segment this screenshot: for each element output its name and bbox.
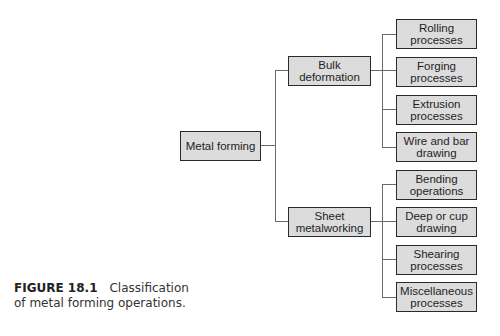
node-label-line1: Shearing: [413, 248, 459, 260]
node-metal-forming: Metal forming: [180, 131, 261, 161]
node-label-line2: processes: [410, 72, 462, 84]
connector-sheet-out: [371, 221, 396, 222]
node-label-line1: Extrusion: [413, 98, 461, 110]
node-label-line1: Forging: [417, 60, 456, 72]
node-extrusion-processes: Extrusionprocesses: [396, 95, 477, 125]
node-shearing-processes: Shearingprocesses: [396, 245, 477, 275]
node-label: Metal forming: [186, 140, 256, 153]
node-rolling-processes: Rollingprocesses: [396, 19, 477, 49]
connector-extrusion: [382, 109, 396, 110]
connector-bending: [382, 184, 396, 185]
node-label-line2: processes: [410, 34, 462, 46]
node-forging-processes: Forgingprocesses: [396, 57, 477, 87]
node-label-line2: drawing: [416, 147, 456, 159]
connector-trunk-sheet: [275, 221, 288, 222]
node-label-line1: Sheet: [314, 210, 344, 222]
connector-wire: [382, 147, 396, 148]
node-label-line2: metalworking: [296, 222, 364, 234]
node-label-line2: processes: [410, 110, 462, 122]
node-wire-and-bar-drawing: Wire and bardrawing: [396, 132, 477, 162]
node-bending-operations: Bendingoperations: [396, 170, 477, 200]
connector-shearing: [382, 259, 396, 260]
node-label-line2: drawing: [416, 222, 456, 234]
connector-sheet-spine: [382, 184, 383, 297]
figure-label: FIGURE 18.1: [14, 281, 97, 295]
connector-misc: [382, 297, 396, 298]
node-label-line2: operations: [410, 185, 464, 197]
connector-trunk-bulk: [275, 70, 288, 71]
connector-root-trunk: [261, 145, 275, 146]
node-label-line1: Rolling: [419, 22, 454, 34]
node-label-line1: Deep or cup: [405, 210, 468, 222]
node-label-line1: Wire and bar: [404, 135, 470, 147]
connector-bulk-spine: [382, 34, 383, 147]
node-label-line1: Bulk: [318, 59, 340, 71]
node-label-line1: Miscellaneous: [400, 285, 473, 297]
node-sheet-metalworking: Sheetmetalworking: [288, 207, 371, 237]
figure-caption: FIGURE 18.1Classification of metal formi…: [14, 281, 189, 311]
node-label-line2: deformation: [299, 71, 360, 83]
node-label-line1: Bending: [415, 173, 457, 185]
connector-bulk-out: [371, 70, 396, 71]
node-label-line2: processes: [410, 260, 462, 272]
node-bulk-deformation: Bulkdeformation: [288, 56, 371, 86]
connector-rolling: [382, 34, 396, 35]
node-miscellaneous-processes: Miscellaneousprocesses: [396, 282, 477, 312]
caption-text-line1: Classification: [109, 281, 188, 295]
node-deep-or-cup-drawing: Deep or cupdrawing: [396, 207, 477, 237]
caption-text-line2: of metal forming operations.: [14, 296, 186, 310]
node-label-line2: processes: [410, 297, 462, 309]
connector-trunk-vertical: [275, 70, 276, 222]
